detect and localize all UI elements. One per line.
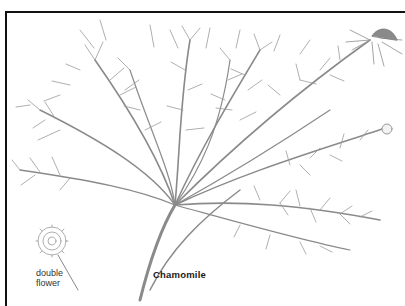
plant-name-caption: Chamomile — [153, 269, 206, 280]
double-flower-label-line2: flower — [36, 278, 63, 288]
chamomile-plant-illustration — [0, 0, 405, 306]
double-flower-label-line1: double — [36, 268, 63, 278]
double-flower-callout: double flower — [36, 268, 63, 288]
